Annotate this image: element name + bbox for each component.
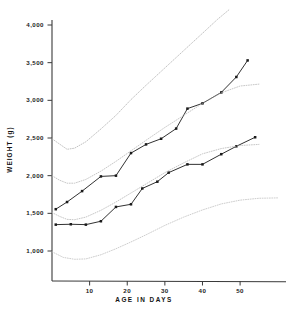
- data-point-marker: [201, 163, 204, 166]
- series-line: [56, 60, 248, 209]
- data-point-marker: [254, 136, 257, 139]
- data-point-marker: [160, 138, 163, 141]
- data-point-marker: [175, 127, 178, 130]
- data-point-marker: [55, 223, 58, 226]
- data-point-marker: [55, 208, 58, 211]
- y-tick-label: 4,000: [4, 21, 44, 28]
- x-tick-label: 30: [152, 287, 178, 294]
- x-tick-label: 10: [77, 287, 103, 294]
- data-point-marker: [186, 107, 189, 110]
- y-tick-label: 1,000: [4, 247, 44, 254]
- x-axis-line: [52, 281, 286, 282]
- x-axis-title: AGE IN DAYS: [0, 296, 288, 303]
- y-axis-ticks: [48, 25, 53, 251]
- series-line: [52, 84, 259, 183]
- series-upper-measured-infant: [55, 59, 249, 210]
- data-point-marker: [100, 175, 103, 178]
- data-point-marker: [85, 223, 88, 226]
- series-reference-percentile-top: [52, 10, 229, 149]
- data-point-marker: [186, 163, 189, 166]
- data-point-marker: [70, 223, 73, 226]
- data-point-marker: [167, 171, 170, 174]
- y-axis-title: WEIGHT (g): [6, 115, 13, 185]
- y-tick-label: 1,500: [4, 209, 44, 216]
- data-point-marker: [81, 190, 84, 193]
- data-point-marker: [246, 59, 249, 62]
- data-point-marker: [130, 152, 133, 155]
- y-tick-label: 3,500: [4, 59, 44, 66]
- data-point-marker: [100, 220, 103, 223]
- data-point-marker: [115, 174, 118, 177]
- data-point-marker: [235, 76, 238, 79]
- axis-lines: [52, 20, 286, 282]
- series-line: [52, 198, 278, 259]
- x-tick-label: 20: [114, 287, 140, 294]
- x-tick-label: 40: [189, 287, 215, 294]
- plot-area: [0, 0, 288, 314]
- data-point-marker: [130, 203, 133, 206]
- series-reference-percentile-bottom: [52, 198, 278, 259]
- data-point-marker: [66, 201, 69, 204]
- series-lower-measured-infant: [55, 136, 257, 226]
- x-tick-label: 50: [227, 287, 253, 294]
- data-point-marker: [145, 143, 148, 146]
- data-point-marker: [141, 187, 144, 190]
- data-point-marker: [156, 180, 159, 183]
- data-series-layer: [52, 10, 278, 259]
- y-tick-label: 3,000: [4, 96, 44, 103]
- growth-chart: 1,0001,5002,0002,5003,0003,5004,000 1020…: [0, 0, 288, 314]
- series-line: [52, 10, 229, 149]
- series-reference-percentile-upper-mid: [52, 84, 259, 183]
- series-line: [56, 137, 255, 224]
- data-point-marker: [115, 206, 118, 209]
- data-point-marker: [220, 153, 223, 156]
